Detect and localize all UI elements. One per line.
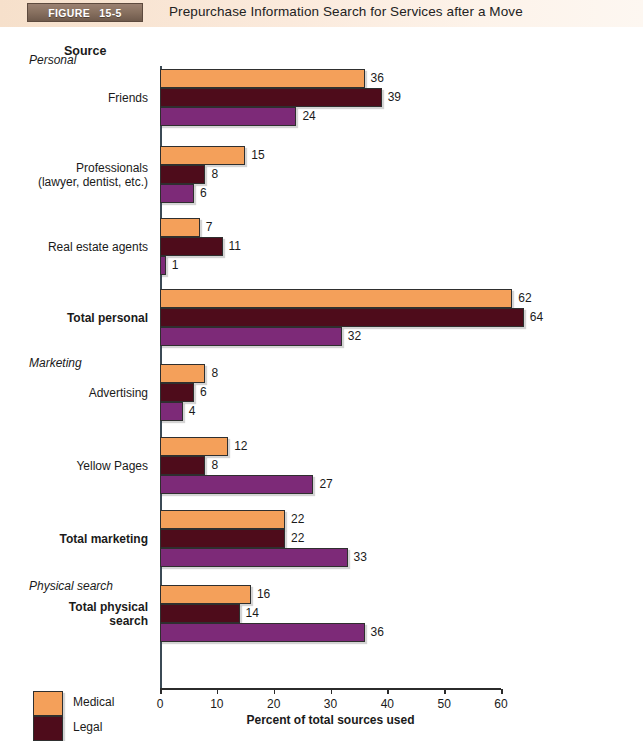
bar-value-label: 39 bbox=[388, 88, 401, 107]
bar-value-label: 36 bbox=[371, 69, 384, 88]
section-label-marketing: Marketing bbox=[29, 356, 82, 370]
bar-veterinary-professionals bbox=[160, 184, 194, 203]
bar-value-label: 15 bbox=[251, 146, 264, 165]
bar-medical-total-marketing bbox=[160, 510, 285, 529]
bar-value-label: 33 bbox=[354, 548, 367, 567]
bar-value-label: 7 bbox=[206, 218, 213, 237]
bar-veterinary-friends bbox=[160, 107, 296, 126]
x-tick-label-0: 0 bbox=[157, 697, 164, 711]
bar-legal-advertising bbox=[160, 383, 194, 402]
bar-legal-friends bbox=[160, 88, 382, 107]
category-label-line1: Yellow Pages bbox=[0, 459, 148, 473]
legend-swatch-legal bbox=[33, 716, 63, 741]
bar-medical-advertising bbox=[160, 364, 205, 383]
bar-value-label: 22 bbox=[291, 529, 304, 548]
x-tick-50 bbox=[444, 689, 446, 694]
category-label-professionals: Professionals(lawyer, dentist, etc.) bbox=[0, 161, 148, 189]
x-tick-label-30: 30 bbox=[324, 697, 337, 711]
bar-legal-professionals bbox=[160, 165, 205, 184]
category-label-total-personal: Total personal bbox=[0, 311, 148, 325]
bar-value-label: 27 bbox=[319, 475, 332, 494]
category-label-line1: Total personal bbox=[0, 311, 148, 325]
bar-medical-yellow-pages bbox=[160, 437, 228, 456]
figure-tag-number: 15-5 bbox=[99, 7, 122, 19]
category-label-line1: Real estate agents bbox=[0, 240, 148, 254]
chart-area: Source 0102030405060 PersonalMarketingPh… bbox=[0, 27, 643, 741]
figure-header-bar: FIGURE 15-5 Prepurchase Information Sear… bbox=[0, 0, 643, 27]
x-tick-label-40: 40 bbox=[381, 697, 394, 711]
bar-value-label: 14 bbox=[246, 604, 259, 623]
figure-tag-word: FIGURE bbox=[48, 7, 90, 19]
bar-value-label: 64 bbox=[530, 308, 543, 327]
bar-veterinary-yellow-pages bbox=[160, 475, 313, 494]
category-label-total-marketing: Total marketing bbox=[0, 532, 148, 546]
bar-value-label: 8 bbox=[211, 364, 218, 383]
bar-value-label: 11 bbox=[229, 237, 241, 256]
bar-value-label: 8 bbox=[211, 456, 218, 475]
x-tick-label-20: 20 bbox=[267, 697, 280, 711]
bar-legal-total-marketing bbox=[160, 529, 285, 548]
x-tick-label-60: 60 bbox=[494, 697, 507, 711]
x-tick-label-10: 10 bbox=[210, 697, 223, 711]
bar-medical-professionals bbox=[160, 146, 245, 165]
category-label-advertising: Advertising bbox=[0, 386, 148, 400]
bar-value-label: 1 bbox=[172, 256, 179, 275]
figure-title: Prepurchase Information Search for Servi… bbox=[169, 4, 523, 19]
bar-medical-friends bbox=[160, 69, 365, 88]
x-tick-label-50: 50 bbox=[437, 697, 450, 711]
category-label-line1: Advertising bbox=[0, 386, 148, 400]
x-tick-20 bbox=[274, 689, 276, 694]
category-label-line1: Total marketing bbox=[0, 532, 148, 546]
bar-legal-real-estate-agents bbox=[160, 237, 223, 256]
category-label-yellow-pages: Yellow Pages bbox=[0, 459, 148, 473]
section-label-personal: Personal bbox=[29, 53, 76, 67]
bar-medical-total-personal bbox=[160, 289, 512, 308]
section-label-physical-search: Physical search bbox=[29, 579, 113, 593]
bar-medical-total-physical bbox=[160, 585, 251, 604]
bar-value-label: 6 bbox=[200, 383, 207, 402]
bar-value-label: 16 bbox=[257, 585, 270, 604]
legend-swatch-medical bbox=[33, 691, 63, 716]
bar-legal-total-physical bbox=[160, 604, 240, 623]
legend-label-legal: Legal bbox=[73, 720, 102, 734]
bar-medical-real-estate-agents bbox=[160, 218, 200, 237]
category-label-line2: search bbox=[0, 614, 148, 628]
figure-tag: FIGURE 15-5 bbox=[27, 3, 143, 22]
category-label-total-physical: Total physicalsearch bbox=[0, 600, 148, 628]
bar-value-label: 62 bbox=[518, 289, 531, 308]
bar-value-label: 24 bbox=[302, 107, 315, 126]
bar-veterinary-total-marketing bbox=[160, 548, 348, 567]
x-axis-title: Percent of total sources used bbox=[160, 713, 501, 727]
bar-value-label: 8 bbox=[211, 165, 218, 184]
category-label-friends: Friends bbox=[0, 91, 148, 105]
bar-value-label: 6 bbox=[200, 184, 207, 203]
bar-value-label: 22 bbox=[291, 510, 304, 529]
bar-legal-yellow-pages bbox=[160, 456, 205, 475]
bar-value-label: 36 bbox=[371, 623, 384, 642]
bar-veterinary-advertising bbox=[160, 402, 183, 421]
bar-value-label: 12 bbox=[234, 437, 247, 456]
bar-legal-total-personal bbox=[160, 308, 524, 327]
x-tick-10 bbox=[217, 689, 219, 694]
category-label-line2: (lawyer, dentist, etc.) bbox=[0, 175, 148, 189]
x-tick-60 bbox=[501, 689, 503, 694]
bar-veterinary-total-physical bbox=[160, 623, 365, 642]
bar-value-label: 4 bbox=[189, 402, 196, 421]
legend-label-medical: Medical bbox=[73, 695, 114, 709]
category-label-real-estate-agents: Real estate agents bbox=[0, 240, 148, 254]
category-label-line1: Total physical bbox=[0, 600, 148, 614]
x-tick-40 bbox=[387, 689, 389, 694]
bar-veterinary-total-personal bbox=[160, 327, 342, 346]
x-tick-0 bbox=[160, 689, 162, 694]
bar-veterinary-real-estate-agents bbox=[160, 256, 166, 275]
bar-value-label: 32 bbox=[348, 327, 361, 346]
x-tick-30 bbox=[331, 689, 333, 694]
category-label-line1: Friends bbox=[0, 91, 148, 105]
category-label-line1: Professionals bbox=[0, 161, 148, 175]
